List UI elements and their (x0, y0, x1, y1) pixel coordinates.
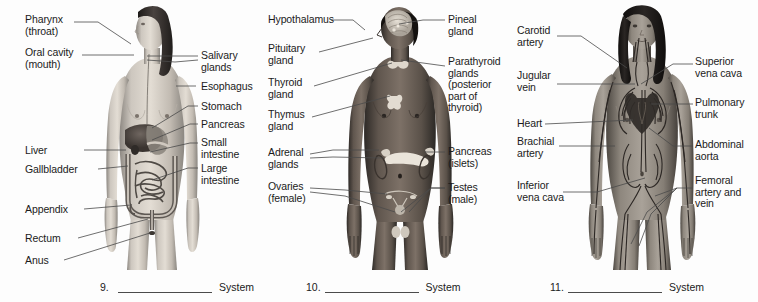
answer-number-11: 11. (550, 281, 564, 293)
answer-row-9: 9. System (100, 281, 254, 293)
figure-endocrine (341, 4, 459, 270)
worksheet-sheet: Pharynx (throat) Oral cavity (mouth) Liv… (0, 0, 758, 302)
label-brachial-artery: Brachial artery (517, 136, 554, 159)
label-ovaries: Ovaries (female) (268, 181, 306, 204)
figure-digestive (101, 4, 204, 270)
label-appendix: Appendix (25, 204, 68, 216)
answer-blank-11[interactable] (568, 283, 662, 293)
label-carotid-artery: Carotid artery (517, 25, 550, 48)
label-anus: Anus (25, 255, 49, 267)
female-figure-digestive-svg (101, 4, 204, 270)
answer-blank-9[interactable] (118, 283, 212, 293)
label-pineal-gland: Pineal gland (448, 14, 477, 37)
label-small-intestine: Small intestine (201, 137, 239, 160)
label-pharynx: Pharynx (throat) (25, 14, 63, 37)
female-figure-circulatory-svg (583, 4, 701, 270)
label-thymus-gland: Thymus gland (268, 109, 305, 132)
label-thyroid-gland: Thyroid gland (268, 77, 302, 100)
panel-digestive-system: Pharynx (throat) Oral cavity (mouth) Liv… (0, 0, 253, 302)
label-pancreas: Pancreas (201, 119, 245, 131)
label-heart: Heart (517, 118, 542, 130)
answer-word-11: System (666, 281, 704, 293)
male-figure-endocrine-svg (341, 4, 459, 270)
answer-blank-10[interactable] (325, 283, 419, 293)
label-inferior-vena-cava: Inferior vena cava (517, 180, 564, 203)
label-hypothalamus: Hypothalamus (268, 14, 334, 26)
answer-word-9: System (216, 281, 254, 293)
label-stomach: Stomach (201, 101, 242, 113)
label-adrenal-glands: Adrenal glands (268, 147, 304, 170)
panel-circulatory-system: Carotid artery Jugular vein Heart Brachi… (505, 0, 758, 302)
answer-number-9: 9. (100, 281, 114, 293)
panel-endocrine-system: Hypothalamus Pituitary gland Thyroid gla… (253, 0, 506, 302)
label-rectum: Rectum (25, 233, 61, 245)
answer-word-10: System (423, 281, 461, 293)
label-abdominal-aorta: Abdominal aorta (695, 139, 744, 162)
label-pituitary-gland: Pituitary gland (268, 43, 305, 66)
label-large-intestine: Large intestine (201, 163, 239, 186)
label-oral-cavity: Oral cavity (mouth) (25, 47, 74, 70)
label-testes: Testes (male) (448, 182, 478, 205)
figure-circulatory (583, 4, 701, 270)
label-parathyroid-glands: Parathyroid glands (posterior part of th… (448, 56, 501, 114)
label-pulmonary-trunk: Pulmonary trunk (695, 97, 744, 120)
answer-number-10: 10. (306, 281, 321, 293)
label-jugular-vein: Jugular vein (517, 70, 551, 93)
label-femoral-artery-vein: Femoral artery and vein (695, 175, 741, 210)
label-salivary-glands: Salivary glands (201, 50, 238, 73)
answer-row-11: 11. System (550, 281, 704, 293)
label-gallbladder: Gallbladder (25, 164, 78, 176)
label-esophagus: Esophagus (201, 81, 253, 93)
label-liver: Liver (25, 145, 47, 157)
answer-row-10: 10. System (306, 281, 461, 293)
label-superior-vena-cava: Superior vena cava (695, 56, 742, 79)
label-pancreas-islets: Pancreas (islets) (448, 146, 492, 169)
